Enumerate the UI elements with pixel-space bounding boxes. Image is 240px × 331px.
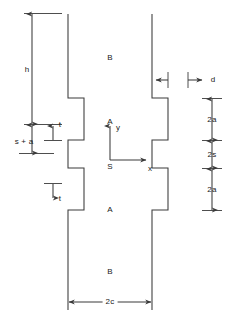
dimension-label-2c: 2c	[103, 298, 118, 306]
dimension-label-d: d	[211, 76, 216, 84]
dimension-label-h: h	[25, 66, 30, 74]
y-axis-label: y	[116, 124, 120, 132]
region-label-upper-a: A	[107, 118, 113, 126]
region-label-lower-a: A	[107, 206, 113, 214]
region-label-bottom-b: B	[107, 268, 113, 276]
dimension-label-2a-upper: 2a	[207, 116, 216, 124]
dimension-label-2s: 2s	[208, 151, 217, 159]
figure-container: B A S A B y x h s + a t t d 2a 2s 2a 2c	[0, 0, 240, 331]
dimension-label-2a-lower: 2a	[207, 186, 216, 194]
dimension-label-t-upper: t	[59, 121, 61, 129]
region-label-top-b: B	[107, 54, 113, 62]
right-wall-profile	[152, 14, 168, 310]
diagram-canvas	[0, 0, 240, 331]
dimension-label-t-lower: t	[59, 195, 61, 203]
dimension-label-s-plus-a: s + a	[15, 138, 34, 146]
region-label-middle-s: S	[107, 163, 113, 171]
x-axis-label: x	[148, 165, 152, 173]
left-wall-profile	[68, 14, 84, 310]
